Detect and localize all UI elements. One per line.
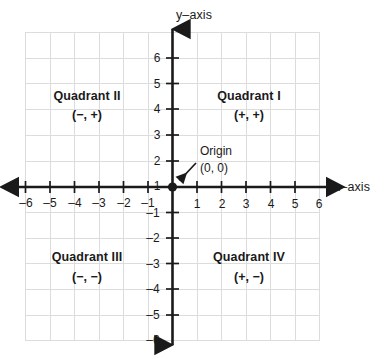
y-tick-label--6: –6 [146, 334, 159, 346]
x-tick-label--2: –2 [117, 197, 130, 209]
x-tick-label--5: –5 [43, 197, 56, 209]
quadrant-2-signs: (−, +) [72, 109, 102, 122]
x-tick-label-3: 3 [243, 198, 250, 210]
y-tick-label-3: 3 [154, 129, 161, 141]
x-tick-label-2: 2 [219, 198, 226, 210]
quadrant-4-signs: (+, −) [234, 271, 264, 284]
y-tick-label-6: 6 [154, 52, 161, 64]
quadrant-1-title: Quadrant I [217, 90, 281, 103]
x-tick-label-4: 4 [268, 198, 275, 210]
y-tick-label-1: 1 [154, 180, 161, 192]
quadrant-3-signs: (−, −) [72, 271, 102, 284]
y-tick-label--5: –5 [146, 309, 159, 321]
x-tick-label--4: –4 [68, 197, 81, 209]
x-tick-label-1: 1 [194, 198, 201, 210]
x-axis-label: x–axis [334, 181, 370, 194]
quadrant-4-title: Quadrant IV [213, 251, 285, 264]
y-tick-label-5: 5 [154, 78, 161, 90]
y-tick-label--2: –2 [146, 232, 159, 244]
origin-point [168, 182, 177, 191]
quadrant-2-title: Quadrant II [53, 90, 120, 103]
y-tick-label-2: 2 [154, 155, 161, 167]
x-tick-label-6: 6 [316, 198, 323, 210]
origin-label: Origin [200, 145, 232, 157]
y-axis-label: y–axis [176, 9, 212, 22]
y-tick-label--1: –1 [146, 207, 159, 219]
coordinate-plane-diagram: y–axis x–axis Quadrant I (+, +) Quadrant… [0, 0, 385, 359]
y-tick-label-4: 4 [154, 103, 161, 115]
quadrant-1-signs: (+, +) [234, 109, 264, 122]
origin-coordinates: (0, 0) [200, 162, 228, 174]
origin-leader-arrow [180, 163, 197, 181]
x-tick-label-5: 5 [292, 198, 299, 210]
coordinate-plane-graphic [0, 0, 385, 359]
x-tick-label--3: –3 [92, 197, 105, 209]
x-tick-label--6: –6 [19, 197, 32, 209]
y-tick-label--3: –3 [146, 258, 159, 270]
quadrant-3-title: Quadrant III [52, 251, 123, 264]
y-tick-label--4: –4 [146, 283, 159, 295]
